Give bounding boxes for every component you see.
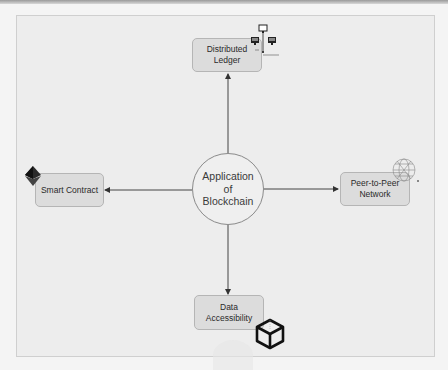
cube-icon [253,317,287,351]
ethereum-diamond-icon [23,165,43,187]
node-label: Smart Contract [41,185,98,196]
center-node-application-of-blockchain[interactable]: Application of Blockchain [192,153,264,225]
node-label: Distributed [207,44,248,55]
center-label-line-1: Application [202,170,253,183]
center-label-line-2: of [202,183,253,196]
node-label: Ledger [207,55,248,66]
node-label: Accessibility [206,313,252,324]
node-label: Data [206,302,252,313]
globe-mesh-icon [390,157,420,185]
node-smart-contract[interactable]: Smart Contract [35,173,104,207]
node-label: Network [351,189,400,200]
center-label-line-3: Blockchain [202,195,253,208]
network-computers-icon [247,23,283,59]
watermark [213,340,253,370]
